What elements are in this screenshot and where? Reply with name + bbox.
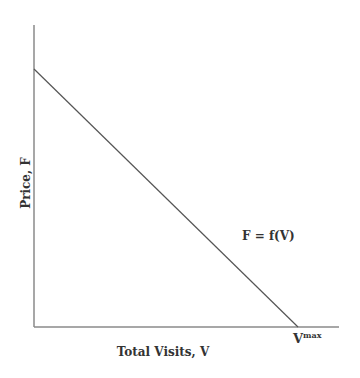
demand-diagram: F = f(V) Vmax Total Visits, V Price, F xyxy=(0,0,360,378)
curve-label: F = f(V) xyxy=(242,229,295,243)
vmax-sup: max xyxy=(303,330,322,340)
x-axis-label: Total Visits, V xyxy=(117,345,210,359)
y-axis-label: Price, F xyxy=(19,157,33,209)
demand-curve xyxy=(34,69,298,327)
vmax-label: Vmax xyxy=(292,330,322,346)
